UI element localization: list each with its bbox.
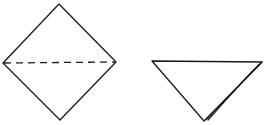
folded-triangle-outline xyxy=(152,61,262,121)
folded-layer-edge xyxy=(208,62,262,120)
step-1-diamond xyxy=(3,4,116,120)
diagram-svg xyxy=(0,0,269,125)
valley-fold-dashed-line xyxy=(4,62,115,63)
diamond-square-outline xyxy=(3,4,116,120)
step-2-triangle xyxy=(152,61,262,121)
origami-diagram xyxy=(0,0,269,125)
folded-layer-edge-inner xyxy=(206,64,259,120)
